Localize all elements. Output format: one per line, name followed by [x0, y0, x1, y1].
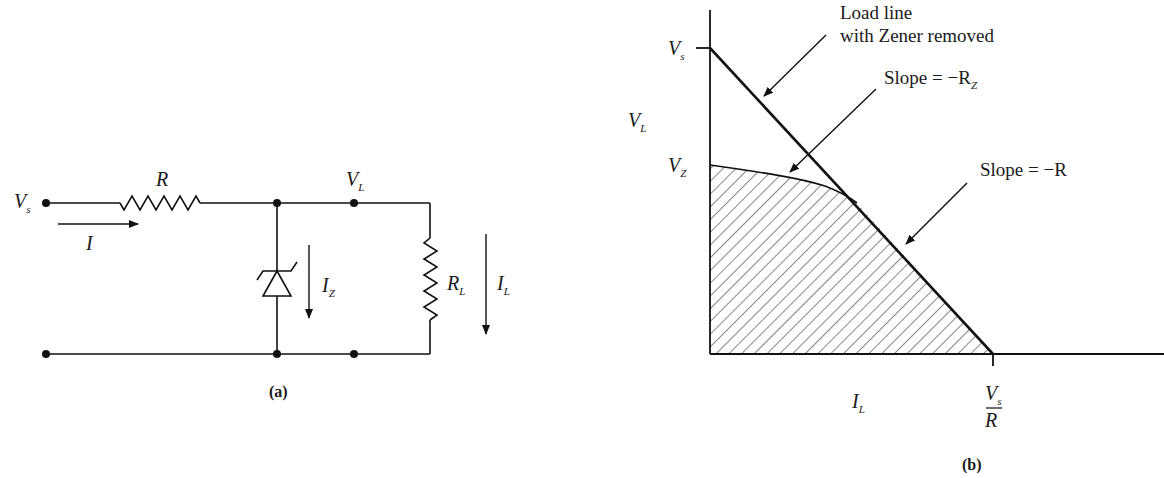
label-rl: RL: [446, 272, 465, 297]
tick-label-vs-num: Vs: [985, 382, 1002, 407]
tick-label-r-den: R: [984, 409, 997, 431]
resistor-r: [120, 196, 200, 210]
circuit-nodes: [42, 199, 358, 358]
circuit-diagram: [46, 196, 437, 354]
label-il: IL: [496, 272, 510, 297]
caption-b: (b): [962, 456, 982, 474]
arrow-slope-rz: [790, 89, 876, 172]
label-i: I: [85, 232, 94, 254]
arrow-slope-r: [906, 183, 967, 244]
annotation-load-line-1: Load line: [840, 2, 912, 23]
label-vl: VL: [346, 168, 364, 193]
x-axis-label: IL: [851, 390, 865, 415]
node-vs: [42, 199, 50, 207]
annotation-slope-r: Slope = −R: [980, 159, 1067, 180]
tick-label-vs: Vs: [668, 37, 685, 62]
caption-a: (a): [269, 383, 288, 401]
label-r: R: [155, 168, 168, 190]
regulated-region: [710, 165, 993, 354]
arrow-load-line: [764, 35, 826, 96]
label-iz: IZ: [321, 274, 336, 299]
annotation-slope-rz: Slope = −RZ: [884, 67, 978, 91]
label-vs: Vs: [14, 190, 31, 215]
node-bottom-left: [42, 350, 50, 358]
node-junction-top: [273, 199, 281, 207]
tick-label-vz: VZ: [668, 154, 687, 179]
resistor-rl: [424, 238, 437, 320]
annotation-load-line-2: with Zener removed: [840, 25, 995, 46]
node-vl-top: [350, 199, 358, 207]
y-axis-label: VL: [628, 109, 646, 134]
node-junction-bottom: [273, 350, 281, 358]
node-vl-bottom: [350, 350, 358, 358]
